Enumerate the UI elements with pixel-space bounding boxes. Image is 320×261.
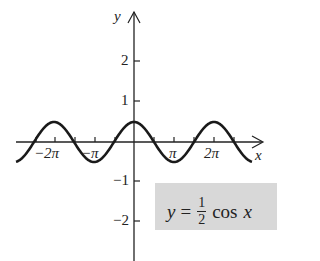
x-tick-label: π: [169, 146, 177, 161]
x-axis-label: x: [255, 148, 262, 163]
y-axis-label: y: [114, 9, 121, 24]
equation-var: x: [243, 201, 251, 223]
y-tick-label: −1: [113, 173, 129, 188]
equation-lhs: y: [167, 201, 175, 223]
x-tick-label: 2π: [204, 146, 219, 161]
x-tick-label: −π: [81, 146, 99, 161]
equation: y = 1 2 cos x: [167, 196, 252, 227]
fraction-numerator: 1: [198, 196, 205, 210]
fraction-denominator: 2: [198, 213, 205, 227]
y-tick-label: 2: [121, 53, 129, 68]
y-ticks: [134, 61, 140, 221]
y-tick-label: −2: [113, 213, 129, 228]
equation-func: cos: [212, 201, 237, 223]
x-ticks: [36, 137, 234, 142]
y-tick-label: 1: [121, 93, 129, 108]
equation-label-box: y = 1 2 cos x: [155, 183, 277, 230]
fraction: 1 2: [197, 196, 206, 227]
x-tick-label: −2π: [34, 146, 59, 161]
equation-equals: =: [180, 201, 191, 223]
